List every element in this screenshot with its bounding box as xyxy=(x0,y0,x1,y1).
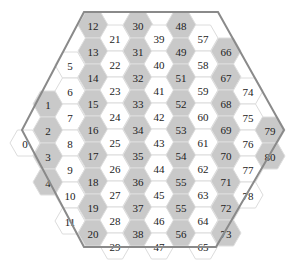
hex-label: 2 xyxy=(45,125,51,137)
hex-label: 60 xyxy=(198,111,210,123)
hex-label: 58 xyxy=(198,59,210,71)
hex-label: 68 xyxy=(221,98,233,110)
hex-label: 17 xyxy=(88,150,100,162)
hex-label: 40 xyxy=(154,59,166,71)
hex-grid-canvas: 0123456789101112131415161718192021222324… xyxy=(0,0,292,276)
hex-label: 27 xyxy=(110,189,122,201)
hex-label: 7 xyxy=(67,112,73,124)
hex-label: 56 xyxy=(176,228,188,240)
hex-label: 31 xyxy=(133,46,144,58)
hex-label: 79 xyxy=(265,125,277,137)
hex-label: 22 xyxy=(110,59,121,71)
hex-label: 46 xyxy=(154,215,166,227)
hex-label: 32 xyxy=(133,72,144,84)
hex-label: 14 xyxy=(88,72,100,84)
hex-label: 45 xyxy=(154,189,166,201)
hex-label: 64 xyxy=(198,215,210,227)
hex-label: 74 xyxy=(243,86,255,98)
hex-label: 52 xyxy=(176,98,187,110)
hex-label: 63 xyxy=(198,189,210,201)
hex-label: 12 xyxy=(88,20,99,32)
hex-label: 10 xyxy=(65,190,77,202)
hex-label: 77 xyxy=(243,164,255,176)
hex-label: 9 xyxy=(67,164,73,176)
hex-label: 34 xyxy=(133,124,145,136)
hex-label: 43 xyxy=(154,137,166,149)
hex-label: 35 xyxy=(133,150,145,162)
hex-label: 13 xyxy=(88,46,100,58)
hex-grid-diagram: 0123456789101112131415161718192021222324… xyxy=(0,0,292,276)
hex-label: 49 xyxy=(176,46,188,58)
hex-label: 3 xyxy=(45,151,51,163)
hex-label: 25 xyxy=(110,137,122,149)
hex-label: 67 xyxy=(221,72,233,84)
hex-label: 23 xyxy=(110,85,122,97)
hex-label: 55 xyxy=(176,176,188,188)
hex-label: 53 xyxy=(176,124,188,136)
hex-label: 72 xyxy=(221,202,232,214)
hex-label: 26 xyxy=(110,163,122,175)
hex-label: 71 xyxy=(221,176,232,188)
hex-label: 16 xyxy=(88,124,100,136)
hex-label: 28 xyxy=(110,215,122,227)
hex-cells: 0123456789101112131415161718192021222324… xyxy=(10,12,285,259)
hex-label: 70 xyxy=(221,150,233,162)
hex-label: 19 xyxy=(88,202,100,214)
hex-label: 1 xyxy=(45,99,51,111)
hex-label: 76 xyxy=(243,138,255,150)
hex-label: 54 xyxy=(176,150,188,162)
hex-label: 33 xyxy=(133,98,145,110)
hex-label: 41 xyxy=(154,85,165,97)
hex-label: 15 xyxy=(88,98,100,110)
hex-label: 38 xyxy=(133,228,145,240)
hex-label: 66 xyxy=(221,46,233,58)
hex-label: 59 xyxy=(198,85,210,97)
hex-label: 36 xyxy=(133,176,145,188)
hex-label: 51 xyxy=(176,72,187,84)
hex-label: 48 xyxy=(176,20,188,32)
hex-label: 69 xyxy=(221,124,233,136)
hex-label: 8 xyxy=(67,138,73,150)
hex-label: 62 xyxy=(198,163,209,175)
hex-label: 5 xyxy=(67,60,73,72)
hex-label: 57 xyxy=(198,33,210,45)
hex-label: 21 xyxy=(110,33,121,45)
hex-label: 20 xyxy=(88,228,100,240)
hex-label: 24 xyxy=(110,111,122,123)
hex-label: 6 xyxy=(67,86,73,98)
hex-label: 75 xyxy=(243,112,255,124)
hex-label: 61 xyxy=(198,137,209,149)
hex-label: 30 xyxy=(133,20,145,32)
hex-label: 18 xyxy=(88,176,100,188)
hex-label: 42 xyxy=(154,111,165,123)
hex-label: 55 xyxy=(176,202,188,214)
hex-label: 39 xyxy=(154,33,166,45)
hex-label: 37 xyxy=(133,202,145,214)
hex-label: 44 xyxy=(154,163,166,175)
